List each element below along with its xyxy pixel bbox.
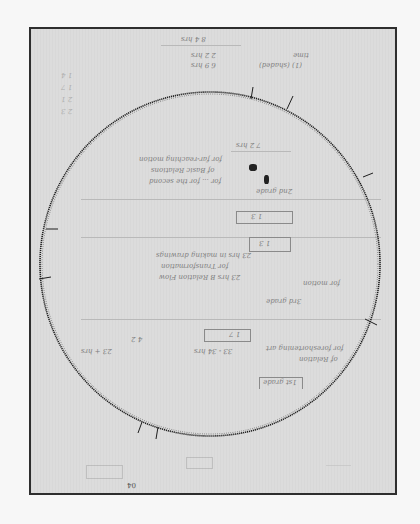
circular-inscription: [31, 29, 397, 495]
document-frame: 8 4 hrs 2 2 hrs 6 9 hrs time (1) (shaded…: [29, 27, 397, 495]
